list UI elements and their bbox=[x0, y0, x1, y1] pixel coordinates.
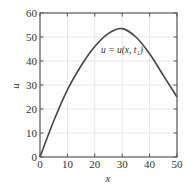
y-tick-label: 20 bbox=[26, 103, 38, 115]
y-tick-label: 0 bbox=[32, 151, 38, 163]
x-tick-label: 40 bbox=[144, 158, 156, 170]
x-tick-label: 30 bbox=[117, 158, 129, 170]
x-tick-label: 20 bbox=[89, 158, 101, 170]
line-chart: 01020304050 0102030405060 x u u = u(x, t… bbox=[0, 0, 191, 186]
grid-lines bbox=[40, 13, 177, 157]
y-axis-label: u bbox=[9, 83, 21, 89]
y-tick-label: 50 bbox=[26, 31, 38, 43]
curve-annotation: u = u(x, t₁) bbox=[101, 45, 143, 56]
x-tick-label: 0 bbox=[37, 158, 43, 170]
y-tick-labels: 0102030405060 bbox=[26, 7, 38, 163]
y-tick-label: 10 bbox=[26, 127, 38, 139]
x-tick-label: 10 bbox=[62, 158, 74, 170]
x-tick-label: 50 bbox=[172, 158, 184, 170]
x-axis-label: x bbox=[105, 172, 111, 184]
x-tick-labels: 01020304050 bbox=[37, 158, 183, 170]
y-tick-label: 30 bbox=[26, 79, 38, 91]
y-tick-label: 40 bbox=[26, 55, 38, 67]
y-tick-label: 60 bbox=[26, 7, 38, 19]
